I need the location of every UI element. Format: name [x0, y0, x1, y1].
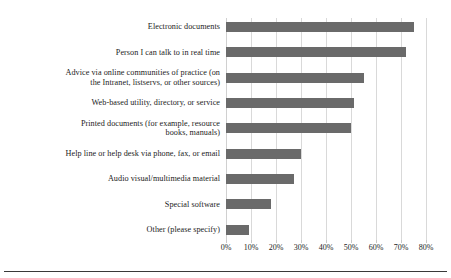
bar [226, 149, 301, 159]
bar [226, 199, 271, 209]
category-label: Help line or help desk via phone, fax, o… [66, 149, 220, 159]
tick-label: 20% [269, 243, 284, 253]
category-label: Person I can talk to in real time [116, 48, 220, 58]
bar-row [226, 199, 426, 209]
tick-label: 80% [419, 243, 434, 253]
bottom-rule [4, 271, 447, 272]
bar [226, 22, 414, 32]
bar-row [226, 174, 426, 184]
bar [226, 123, 351, 133]
bar-row [226, 123, 426, 133]
bar [226, 73, 364, 83]
tick-label: 0% [221, 243, 232, 253]
bar-chart-figure: Electronic documentsPerson I can talk to… [0, 0, 451, 278]
category-label: Web-based utility, directory, or service [92, 98, 221, 108]
bar [226, 98, 354, 108]
bar-row [226, 22, 426, 32]
bar-row [226, 73, 426, 83]
bar-row [226, 47, 426, 57]
bar [226, 47, 406, 57]
category-label: Special software [165, 200, 220, 210]
tick-label: 40% [319, 243, 334, 253]
tick-label: 10% [244, 243, 259, 253]
x-axis-tick-labels: 0%10%20%30%40%50%60%70%80% [226, 243, 426, 257]
plot-area [226, 18, 426, 240]
bar-row [226, 98, 426, 108]
bar-row [226, 149, 426, 159]
category-label: Other (please specify) [147, 225, 220, 235]
category-label: Printed documents (for example, resource… [81, 119, 220, 138]
tick-label: 60% [369, 243, 384, 253]
category-label: Electronic documents [148, 22, 220, 32]
category-label: Audio visual/multimedia material [108, 174, 220, 184]
tick-label: 50% [344, 243, 359, 253]
tick-label: 70% [394, 243, 409, 253]
bar [226, 174, 294, 184]
gridline-80 [426, 18, 427, 240]
bar-row [226, 225, 426, 235]
tick-label: 30% [294, 243, 309, 253]
category-label: Advice via online communities of practic… [65, 68, 220, 87]
bar [226, 225, 249, 235]
